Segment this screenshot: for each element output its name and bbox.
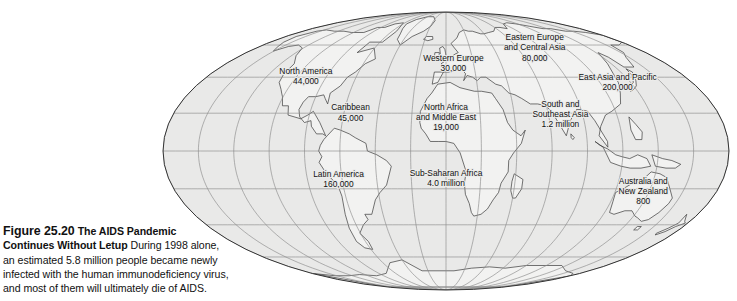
caption-line-3: an estimated 5.8 million people became n…	[3, 253, 235, 267]
region-value: 800	[636, 196, 650, 206]
region-name: East Asia and Pacific	[578, 72, 656, 82]
figure-title-line-2: Continues Without Letup	[3, 239, 128, 251]
figure-number: Figure 25.20	[3, 224, 75, 238]
caption-text-1: During 1998 alone,	[131, 239, 220, 251]
region-value: 80,000	[522, 53, 548, 63]
region-name: New Zealand	[619, 186, 669, 196]
region-name: Sub-Saharan Africa	[410, 168, 483, 178]
region-value: 44,000	[293, 76, 319, 86]
region-value: 4.0 million	[427, 178, 465, 188]
region-name: and Middle East	[416, 112, 477, 122]
region-name: North Africa	[424, 102, 468, 112]
caption-line-1: Figure 25.20 The AIDS Pandemic	[3, 224, 235, 238]
region-value: 30,000	[441, 63, 467, 73]
region-value: 19,000	[433, 122, 459, 132]
region-name: Latin America	[313, 169, 364, 179]
figure-title-line-1: The AIDS Pandemic	[78, 225, 177, 237]
region-name: South and	[541, 99, 580, 109]
figure-container: North America44,000Caribbean45,000Latin …	[0, 0, 737, 301]
region-name: Australia and	[619, 176, 668, 186]
region-name: Western Europe	[423, 53, 484, 63]
region-value: 1.2 million	[542, 119, 580, 129]
region-value: 160,000	[323, 179, 354, 189]
region-name: and Central Asia	[504, 42, 566, 52]
caption-line-5: and most of them will ultimately die of …	[3, 281, 235, 295]
world-map: North America44,000Caribbean45,000Latin …	[160, 6, 732, 296]
figure-caption: Figure 25.20 The AIDS Pandemic Continues…	[3, 224, 235, 295]
region-value: 45,000	[338, 113, 364, 123]
world-map-svg: North America44,000Caribbean45,000Latin …	[160, 6, 732, 296]
region-name: Caribbean	[331, 102, 370, 112]
region-name: Southeast Asia	[532, 109, 588, 119]
caption-line-4: infected with the human immunodeficiency…	[3, 267, 235, 281]
caption-line-2: Continues Without Letup During 1998 alon…	[3, 238, 235, 252]
region-name: Eastern Europe	[506, 32, 565, 42]
region-value: 200,000	[602, 82, 633, 92]
region-name: North America	[279, 66, 332, 76]
